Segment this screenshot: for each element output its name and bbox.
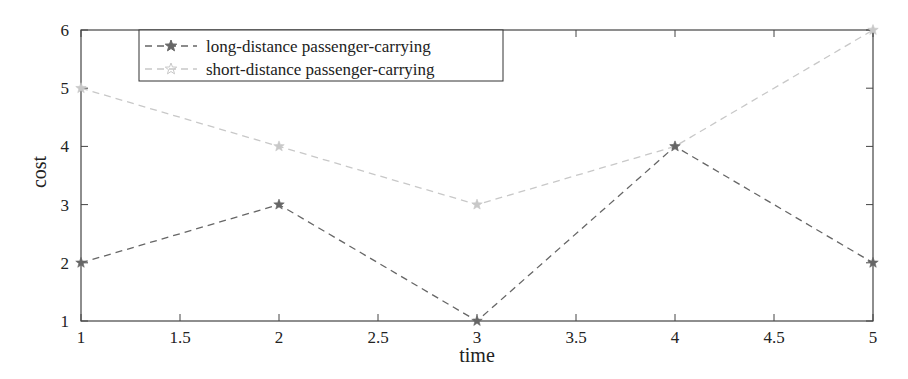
y-axis-title: cost — [28, 155, 50, 188]
x-tick-label: 3.5 — [565, 328, 586, 347]
y-tick-label: 4 — [61, 137, 70, 156]
x-tick-label: 2.5 — [367, 328, 388, 347]
x-tick-label: 2 — [275, 328, 284, 347]
series-line — [81, 146, 873, 321]
y-tick-label: 2 — [61, 254, 70, 273]
star-marker — [274, 141, 284, 151]
star-marker — [274, 199, 284, 209]
star-marker — [472, 316, 482, 326]
x-tick-label: 4 — [671, 328, 680, 347]
x-tick-label: 5 — [869, 328, 878, 347]
y-tick-label: 5 — [61, 79, 70, 98]
legend-label-long-distance: long-distance passenger-carrying — [206, 37, 431, 56]
line-chart: 11.522.533.544.55123456 time cost long-d… — [0, 0, 908, 379]
legend-label-short-distance: short-distance passenger-carrying — [206, 60, 435, 79]
x-tick-label: 1.5 — [169, 328, 190, 347]
star-marker — [472, 199, 482, 209]
x-axis-title: time — [459, 344, 495, 366]
y-tick-label: 1 — [61, 312, 70, 331]
legend: long-distance passenger-carrying short-d… — [139, 30, 503, 81]
star-marker — [670, 141, 680, 151]
x-tick-label: 4.5 — [763, 328, 784, 347]
y-tick-label: 3 — [61, 196, 70, 215]
y-tick-label: 6 — [61, 21, 70, 40]
x-tick-label: 1 — [77, 328, 86, 347]
